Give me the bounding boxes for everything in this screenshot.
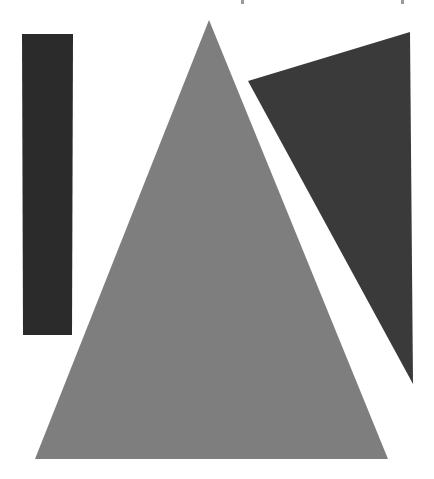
image-canvas <box>0 0 434 479</box>
tall-rectangle-shape <box>22 34 73 335</box>
top-edge-mark <box>401 0 404 4</box>
shapes-svg <box>0 0 434 479</box>
top-edge-mark <box>241 0 244 4</box>
